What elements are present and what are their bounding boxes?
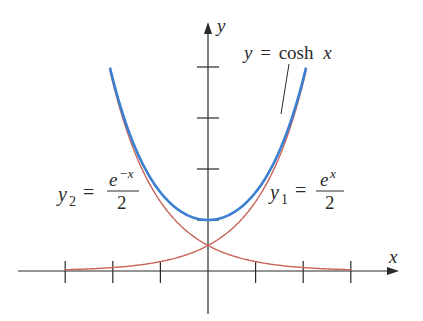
y2-den: 2 — [117, 192, 127, 213]
y-axis-label: y — [215, 15, 226, 36]
cosh-label-eq: = — [260, 42, 271, 63]
x-axis-arrow-icon — [387, 267, 399, 275]
y2-sub: 2 — [69, 194, 76, 209]
y1-var: y — [268, 181, 279, 204]
cosh-label-fn: cosh — [279, 42, 314, 63]
y2-num-base: e — [109, 169, 117, 190]
y-axis-arrow-icon — [204, 22, 212, 34]
y2-num-exp: −x — [119, 166, 134, 181]
x-axis-label: x — [388, 246, 398, 267]
y2-var: y — [56, 183, 67, 206]
y1-label: y 1 = e x 2 — [268, 166, 344, 213]
y1-sub: 1 — [281, 192, 288, 207]
y1-num-exp: x — [329, 166, 336, 181]
y2-eq: = — [83, 181, 94, 203]
cosh-leader-line — [281, 64, 289, 114]
cosh-label: y = cosh x — [242, 42, 332, 63]
y1-num-base: e — [320, 169, 328, 190]
cosh-label-lhs: y — [242, 42, 253, 63]
y2-label: y 2 = e −x 2 — [56, 166, 139, 213]
cosh-diagram: y x y = cosh x y 2 = e −x 2 y 1 = e x 2 — [0, 0, 423, 321]
y1-den: 2 — [325, 192, 335, 213]
cosh-label-var: x — [322, 42, 332, 63]
y1-eq: = — [295, 179, 306, 201]
